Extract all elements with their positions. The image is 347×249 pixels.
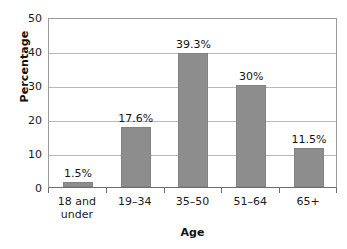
x-category-label-line: 18 and: [48, 195, 106, 208]
x-axis-category-labels: 18 andunder19–3435–5051–6465+: [48, 195, 337, 229]
plot-area: 1.5%17.6%39.3%30%11.5%: [48, 18, 337, 188]
x-category-label-line: under: [48, 208, 106, 221]
x-category-label-line: 51–64: [221, 195, 279, 208]
y-tick-label: 10: [16, 149, 42, 160]
bar-slot: 30%: [222, 19, 280, 187]
bar-value-label: 1.5%: [64, 168, 92, 179]
bar-value-label: 17.6%: [118, 113, 153, 124]
y-tick-label: 30: [16, 81, 42, 92]
y-tick-label: 50: [16, 13, 42, 24]
bar-chart-figure: Percentage 01020304050 1.5%17.6%39.3%30%…: [0, 0, 347, 249]
bar-value-label: 39.3%: [176, 39, 211, 50]
x-tick-mark: [336, 188, 337, 193]
x-category-label-line: 35–50: [164, 195, 222, 208]
bar-value-label: 30%: [239, 71, 263, 82]
bar: [63, 182, 93, 187]
x-category-label: 51–64: [221, 195, 279, 208]
x-category-label-line: 19–34: [106, 195, 164, 208]
bar: [178, 53, 208, 187]
x-category-label: 19–34: [106, 195, 164, 208]
bar: [294, 148, 324, 187]
x-category-label-line: 65+: [279, 195, 337, 208]
bar-value-label: 11.5%: [292, 134, 327, 145]
x-tick-mark: [221, 188, 222, 193]
x-category-label: 35–50: [164, 195, 222, 208]
y-tick-label: 20: [16, 115, 42, 126]
x-category-label: 18 andunder: [48, 195, 106, 221]
y-tick-label: 0: [16, 183, 42, 194]
bar-slot: 11.5%: [280, 19, 338, 187]
x-axis-tick-marks: [48, 188, 337, 193]
bar: [236, 85, 266, 187]
bars-layer: 1.5%17.6%39.3%30%11.5%: [49, 19, 336, 187]
x-tick-mark: [279, 188, 280, 193]
x-tick-mark: [106, 188, 107, 193]
x-tick-mark: [48, 188, 49, 193]
x-category-label: 65+: [279, 195, 337, 208]
bar: [121, 127, 151, 187]
bar-slot: 1.5%: [49, 19, 107, 187]
y-tick-label: 40: [16, 47, 42, 58]
bar-slot: 17.6%: [107, 19, 165, 187]
x-tick-mark: [164, 188, 165, 193]
y-axis-tick-labels: 01020304050: [14, 0, 42, 249]
x-axis-title: Age: [48, 226, 337, 239]
bar-slot: 39.3%: [165, 19, 223, 187]
